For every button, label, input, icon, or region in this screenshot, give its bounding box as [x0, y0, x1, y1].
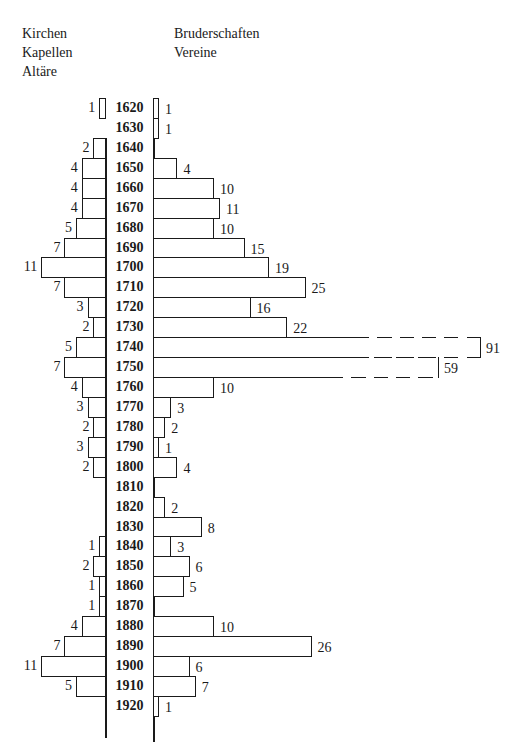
chart-row-1870: 18701: [0, 596, 524, 616]
value-label-left: 2: [82, 556, 89, 576]
value-label-left: 1: [88, 576, 95, 596]
bar-left: [64, 636, 106, 657]
bar-left: [64, 277, 106, 298]
bar-left: [41, 656, 106, 677]
value-label-left: 4: [71, 178, 78, 198]
bar-right: [153, 238, 245, 259]
chart-row-1810: 1810: [0, 477, 524, 497]
butterfly-chart: 1620111630116402165044166041016704111680…: [0, 0, 524, 748]
chart-row-1640: 16402: [0, 138, 524, 158]
value-label-left: 11: [24, 257, 37, 277]
bar-left: [93, 457, 106, 478]
bar-right: [153, 158, 177, 179]
bar-right-broken: [153, 337, 356, 358]
bar-right: [153, 696, 159, 717]
bar-left: [88, 437, 106, 458]
bar-right: [153, 656, 190, 677]
year-label: 1660: [106, 178, 153, 198]
value-label-left: 2: [82, 138, 89, 158]
value-label-left: 3: [77, 297, 84, 317]
year-label: 1840: [106, 536, 153, 556]
value-label-left: 3: [77, 397, 84, 417]
bar-left: [88, 397, 106, 418]
year-label: 1820: [106, 497, 153, 517]
year-label: 1780: [106, 417, 153, 437]
bar-left: [99, 576, 106, 597]
value-label-left: 5: [65, 337, 72, 357]
chart-row-1650: 165044: [0, 158, 524, 178]
bar-break-dash: [330, 357, 438, 358]
chart-row-1790: 179031: [0, 437, 524, 457]
value-label-left: 2: [82, 457, 89, 477]
value-label-right: 1: [165, 698, 172, 718]
bar-break-dash: [356, 337, 480, 338]
year-label: 1710: [106, 277, 153, 297]
bar-left: [93, 138, 106, 159]
value-label-left: 1: [88, 596, 95, 616]
chart-row-1700: 17001119: [0, 257, 524, 277]
bar-left: [82, 178, 106, 199]
bar-right: [153, 676, 196, 697]
bar-left: [41, 257, 106, 278]
chart-row-1630: 16301: [0, 118, 524, 138]
bar-right: [153, 118, 159, 139]
chart-row-1780: 178022: [0, 417, 524, 437]
bar-right: [153, 457, 177, 478]
year-label: 1910: [106, 676, 153, 696]
year-label: 1860: [106, 576, 153, 596]
year-label: 1880: [106, 616, 153, 636]
year-label: 1640: [106, 138, 153, 158]
bar-right: [153, 198, 220, 219]
year-label: 1630: [106, 118, 153, 138]
bar-right: [153, 437, 159, 458]
year-label: 1750: [106, 357, 153, 377]
bar-right: [153, 556, 190, 577]
bar-left: [93, 417, 106, 438]
year-label: 1790: [106, 437, 153, 457]
year-label: 1760: [106, 377, 153, 397]
bar-right: [153, 218, 214, 239]
bar-right: [153, 397, 171, 418]
chart-row-1760: 1760410: [0, 377, 524, 397]
value-label-left: 7: [53, 357, 60, 377]
bar-right: [153, 317, 287, 338]
bar-right: [153, 277, 306, 298]
bar-right-broken: [153, 357, 330, 378]
bar-right: [153, 417, 165, 438]
bar-left: [76, 676, 106, 697]
chart-row-1860: 186015: [0, 576, 524, 596]
value-label-left: 5: [65, 218, 72, 238]
chart-row-1850: 185026: [0, 556, 524, 576]
chart-row-1660: 1660410: [0, 178, 524, 198]
bar-left: [88, 297, 106, 318]
year-label: 1770: [106, 397, 153, 417]
year-label: 1730: [106, 317, 153, 337]
chart-row-1730: 1730222: [0, 317, 524, 337]
chart-row-1670: 1670411: [0, 198, 524, 218]
value-label-left: 7: [53, 636, 60, 656]
value-label-left: 1: [88, 98, 95, 118]
chart-row-1840: 184013: [0, 536, 524, 556]
year-label: 1670: [106, 198, 153, 218]
bar-left: [99, 596, 106, 617]
value-label-left: 5: [65, 676, 72, 696]
year-label: 1720: [106, 297, 153, 317]
bar-right: [153, 497, 165, 518]
bar-left: [76, 218, 106, 239]
year-label: 1890: [106, 636, 153, 656]
value-label-left: 7: [53, 277, 60, 297]
chart-row-1820: 18202: [0, 497, 524, 517]
bar-right: [153, 636, 312, 657]
chart-row-1830: 18308: [0, 517, 524, 537]
bar-right: [153, 178, 214, 199]
year-label: 1700: [106, 257, 153, 277]
bar-left: [99, 98, 106, 119]
chart-row-1750: 1750759: [0, 357, 524, 377]
value-label-left: 2: [82, 417, 89, 437]
value-label-left: 3: [77, 437, 84, 457]
year-label: 1650: [106, 158, 153, 178]
chart-row-1710: 1710725: [0, 277, 524, 297]
value-label-left: 4: [71, 616, 78, 636]
bar-right: [153, 297, 251, 318]
value-label-left: 11: [24, 656, 37, 676]
